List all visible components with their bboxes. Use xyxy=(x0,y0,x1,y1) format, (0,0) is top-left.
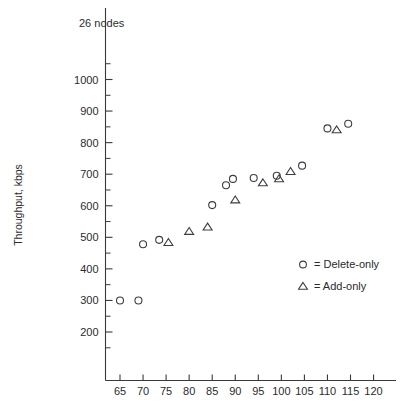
data-point-circle xyxy=(229,175,236,182)
data-point-circle xyxy=(209,202,216,209)
y-tick-label: 300 xyxy=(80,294,98,306)
series-delete-only xyxy=(117,120,352,304)
data-point-circle xyxy=(324,125,331,132)
chart-canvas: Throughput, kbps 26 nodes 20030040050060… xyxy=(0,0,403,410)
y-axis-tick-labels: 2003004005006007008009001000 xyxy=(74,74,98,339)
x-tick-label: 90 xyxy=(229,385,241,397)
data-point-circle xyxy=(345,120,352,127)
legend-entry-label: = Add-only xyxy=(314,280,367,292)
data-point-triangle xyxy=(332,126,341,133)
x-tick-label: 105 xyxy=(295,385,313,397)
chart-legend: = Delete-only= Add-only xyxy=(299,258,380,292)
y-tick-label: 700 xyxy=(80,168,98,180)
data-point-triangle xyxy=(286,168,295,175)
x-tick-label: 115 xyxy=(342,385,360,397)
y-tick-label: 600 xyxy=(80,200,98,212)
x-tick-label: 95 xyxy=(252,385,264,397)
x-axis-tick-labels: 65707580859095100105110115120 xyxy=(114,385,383,397)
x-tick-label: 80 xyxy=(183,385,195,397)
series-add-only xyxy=(164,126,341,246)
y-tick-label: 900 xyxy=(80,105,98,117)
y-axis-title: Throughput, kbps xyxy=(12,164,24,246)
y-axis-major-ticks xyxy=(106,80,113,333)
data-point-circle xyxy=(299,162,306,169)
data-point-triangle xyxy=(258,179,267,186)
data-point-circle xyxy=(223,182,230,189)
x-tick-label: 120 xyxy=(364,385,382,397)
x-tick-label: 75 xyxy=(160,385,172,397)
x-tick-label: 110 xyxy=(319,385,337,397)
x-tick-label: 65 xyxy=(114,385,126,397)
data-point-triangle xyxy=(164,239,173,246)
data-point-circle xyxy=(300,261,307,268)
scatter-chart: Throughput, kbps 26 nodes 20030040050060… xyxy=(0,0,403,410)
y-tick-label: 200 xyxy=(80,326,98,338)
x-tick-label: 70 xyxy=(137,385,149,397)
x-tick-label: 100 xyxy=(272,385,290,397)
data-point-triangle xyxy=(231,196,240,203)
y-tick-label: 800 xyxy=(80,137,98,149)
y-tick-label: 400 xyxy=(80,263,98,275)
data-point-circle xyxy=(117,297,124,304)
data-point-circle xyxy=(250,174,257,181)
data-point-circle xyxy=(135,297,142,304)
x-axis-major-ticks xyxy=(120,375,374,381)
chart-annotation: 26 nodes xyxy=(79,17,125,29)
data-point-triangle xyxy=(185,228,194,235)
data-point-circle xyxy=(140,241,147,248)
x-tick-label: 85 xyxy=(206,385,218,397)
data-point-triangle xyxy=(203,223,212,230)
y-tick-label: 500 xyxy=(80,231,98,243)
y-tick-label: 1000 xyxy=(74,74,98,86)
data-point-triangle xyxy=(299,282,308,289)
data-point-circle xyxy=(156,236,163,243)
legend-entry-label: = Delete-only xyxy=(314,258,380,270)
